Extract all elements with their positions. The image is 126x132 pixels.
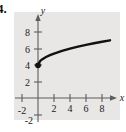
y-tick-label-neg2: -2 xyxy=(25,115,33,126)
x-tick-label-6: 6 xyxy=(84,103,89,114)
y-tick-label-8: 8 xyxy=(25,27,30,38)
x-tick-label-8: 8 xyxy=(100,103,105,114)
x-tick-label-4: 4 xyxy=(68,103,73,114)
endpoint-dot xyxy=(35,62,41,68)
y-tick-label-2: 2 xyxy=(25,77,30,88)
y-axis-name: y xyxy=(40,5,46,16)
figure-container: 4. 8 6 4 2 xyxy=(0,0,126,132)
x-tick-label-2: 2 xyxy=(52,103,57,114)
graph-svg: 8 6 4 2 -2 -2 2 4 6 8 y x xyxy=(0,0,126,132)
x-axis-name: x xyxy=(119,92,125,103)
y-tick-label-4: 4 xyxy=(25,60,30,71)
x-axis-arrowhead xyxy=(110,95,117,100)
x-tick-label-neg2: -2 xyxy=(18,105,26,116)
y-tick-label-6: 6 xyxy=(25,44,30,55)
curve-sqrt xyxy=(38,40,110,65)
